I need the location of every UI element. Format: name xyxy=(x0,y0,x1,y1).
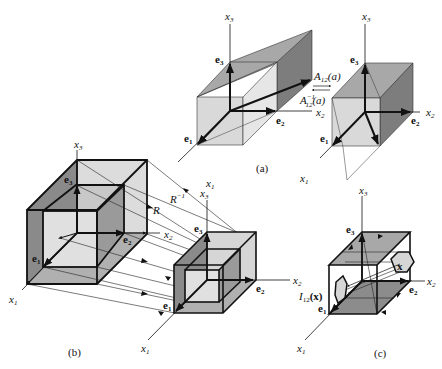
x2-label: x2 xyxy=(426,275,436,289)
symmetry-operations-diagram: x3 e3 e2 e1 x2 x1 A12(a) A−112(a) (a) x3… xyxy=(0,0,442,369)
x3-label: x3 xyxy=(361,10,371,24)
x1-label: x1 xyxy=(299,172,308,186)
caption-c: (c) xyxy=(374,347,387,360)
e1-label: e1 xyxy=(318,302,327,316)
x2-label: x2 xyxy=(292,274,302,288)
e3-label: e3 xyxy=(215,53,224,67)
x1-label: x1 xyxy=(296,342,305,356)
x3-label: x3 xyxy=(358,184,368,198)
e3-label: e3 xyxy=(194,222,203,236)
panel-c-cube: x x3 e3 e2 x2 e1 x1 I12(x) (c) xyxy=(296,184,436,360)
x2-label: x2 xyxy=(425,106,435,120)
e1-label: e1 xyxy=(320,132,329,146)
x3-label: x3 xyxy=(73,138,83,152)
x1-label: x1 xyxy=(140,342,149,356)
x3-label: x3 xyxy=(224,10,234,24)
x2-label: x2 xyxy=(315,106,325,120)
point-x-label: x xyxy=(397,260,403,272)
x1-label: x1 xyxy=(8,293,17,307)
image-label: I12(x) xyxy=(298,290,323,304)
x3-label: x3 xyxy=(199,187,209,201)
inverse-rotation-label: R−1 xyxy=(169,192,185,205)
e1-label: e1 xyxy=(163,299,172,313)
x1-label: x1 xyxy=(205,177,214,191)
forward-map-label: A12(a) xyxy=(313,70,341,84)
e3-label: e3 xyxy=(350,53,359,67)
e2-label: e2 xyxy=(409,283,418,297)
inverse-map-label: A−112(a) xyxy=(299,93,326,109)
e2-label: e2 xyxy=(256,282,265,296)
caption-a: (a) xyxy=(256,162,269,175)
caption-b: (b) xyxy=(68,346,81,359)
e2-label: e2 xyxy=(276,114,285,128)
panel-b-small-cube: x3 e3 e2 x2 e1 x1 xyxy=(140,187,302,356)
rotation-label: R xyxy=(152,204,160,216)
e2-label: e2 xyxy=(411,114,420,128)
panel-b-large-cube: e3 e2 e1 x2 x3 x1 (b) xyxy=(8,138,173,359)
e1-label: e1 xyxy=(184,132,193,146)
x2-label: x2 xyxy=(163,228,173,242)
e3-label: e3 xyxy=(346,223,355,237)
